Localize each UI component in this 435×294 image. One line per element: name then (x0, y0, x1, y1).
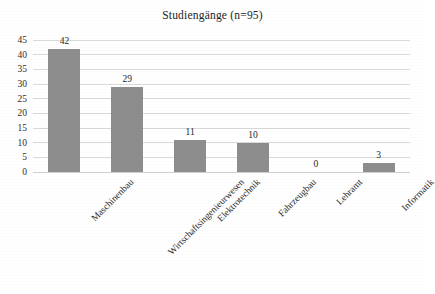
gridline-35 (33, 69, 410, 70)
y-tick-label: 30 (18, 79, 28, 89)
gridline-30 (33, 84, 410, 85)
x-category-label: Lehramt (334, 177, 364, 207)
gridline-10 (33, 142, 410, 143)
y-tick-label: 40 (18, 50, 28, 60)
y-tick-label: 20 (18, 108, 28, 118)
y-axis: 051015202530354045 (0, 40, 31, 172)
bar (111, 87, 143, 172)
bar-value-label: 29 (107, 74, 147, 84)
bar-value-label: 3 (359, 150, 399, 160)
gridline-25 (33, 98, 410, 99)
bar (48, 49, 80, 172)
x-category-label: Fahrzeugbau (276, 177, 318, 219)
gridline-15 (33, 128, 410, 129)
bar-value-label: 42 (44, 36, 84, 46)
x-category-label: Informatik (399, 177, 435, 213)
bar (363, 163, 395, 172)
bar-value-label: 11 (170, 127, 210, 137)
x-axis-category-labels: MaschinenbauWirtschaftsingenieurwesenEle… (0, 172, 425, 294)
bar-value-label: 10 (233, 130, 273, 140)
gridline-40 (33, 54, 410, 55)
bar-value-label: 0 (296, 159, 336, 169)
x-category-label: Wirtschaftsingenieurwesen (166, 177, 246, 257)
x-category-label: Maschinenbau (90, 177, 136, 223)
bar (174, 140, 206, 172)
gridline-5 (33, 157, 410, 158)
plot-area: 4229111003 (33, 40, 410, 172)
bar (237, 143, 269, 172)
gridline-20 (33, 113, 410, 114)
chart-title: Studiengänge (n=95) (0, 9, 425, 21)
y-tick-label: 10 (18, 138, 28, 148)
y-tick-label: 45 (18, 35, 28, 45)
y-tick-label: 35 (18, 64, 28, 74)
y-tick-label: 5 (22, 152, 27, 162)
y-tick-label: 15 (18, 123, 28, 133)
y-tick-label: 25 (18, 94, 28, 104)
gridline-45 (33, 40, 410, 41)
